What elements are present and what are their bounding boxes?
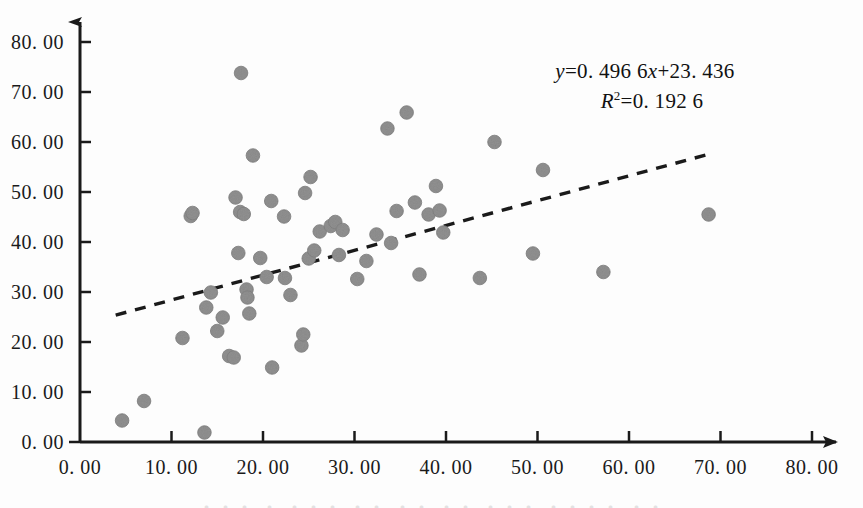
data-point [265,361,279,375]
equation-intercept: +23. 436 [657,59,734,83]
data-point [436,226,450,240]
regression-equation: y=0. 496 6x+23. 436 [520,56,770,86]
data-point [242,307,256,321]
scatter-plot-figure: 0. 0010. 0020. 0030. 0040. 0050. 0060. 0… [0,0,863,508]
data-point [241,291,255,305]
y-tick-label-10: 10. 00 [0,381,64,404]
data-points [115,66,715,439]
data-point [216,311,230,325]
data-point [488,135,502,149]
data-point [370,228,384,242]
equation-y-symbol: y [555,59,565,83]
y-tick-label-40: 40. 00 [0,231,64,254]
r-squared-exponent: 2 [614,88,621,103]
data-point [199,301,213,315]
data-point [381,122,395,136]
data-point [473,271,487,285]
data-point [526,247,540,261]
data-point [433,204,447,218]
data-point [227,351,241,365]
data-point [536,163,550,177]
x-tick-label-50: 50. 00 [511,456,564,479]
data-point [284,288,298,302]
data-point [384,236,398,250]
data-point [229,191,243,205]
data-point [336,223,350,237]
data-point [350,272,364,286]
data-point [304,170,318,184]
data-point [186,206,200,220]
x-tick-label-10: 10. 00 [145,456,198,479]
data-point [210,324,224,338]
data-point [429,179,443,193]
r-squared-annotation: R2=0. 192 6 [520,86,770,116]
y-tick-label-80: 80. 00 [0,31,64,54]
y-tick-label-60: 60. 00 [0,131,64,154]
data-point [232,246,246,260]
data-point [597,265,611,279]
data-point [296,328,310,342]
data-point [176,331,190,345]
y-tick-label-0: 0. 00 [0,431,64,454]
x-tick-label-20: 20. 00 [237,456,290,479]
data-point [298,186,312,200]
regression-annotation: y=0. 496 6x+23. 436 R2=0. 192 6 [520,56,770,117]
data-point [137,394,151,408]
data-point [307,244,321,258]
cropped-caption-sliver: ・・・ ・ ・・・ ・・ ・・ ・・ ・・・ ・・・・ ・・ [0,496,863,508]
data-point [413,268,427,282]
data-point [408,196,422,210]
data-point [360,254,374,268]
x-axis-ticks [172,431,813,442]
y-tick-label-20: 20. 00 [0,331,64,354]
equation-coefficient: =0. 496 6 [565,59,648,83]
data-point [278,271,292,285]
data-point [246,149,260,163]
r-squared-symbol: R [601,89,614,113]
x-tick-label-0: 0. 00 [59,456,102,479]
data-point [234,66,248,80]
x-tick-label-30: 30. 00 [328,456,381,479]
data-point [115,414,129,428]
data-point [253,251,267,265]
data-point [264,194,278,208]
data-point [702,208,716,222]
data-point [260,270,274,284]
data-point [390,204,404,218]
data-point [237,207,251,221]
x-tick-label-80: 80. 00 [786,456,839,479]
data-point [400,106,414,120]
data-point [204,286,218,300]
x-tick-label-60: 60. 00 [603,456,656,479]
r-squared-value: =0. 192 6 [621,89,704,113]
y-tick-label-70: 70. 00 [0,81,64,104]
data-point [277,210,291,224]
equation-x-symbol: x [648,59,658,83]
x-tick-label-40: 40. 00 [420,456,473,479]
data-point [198,426,212,440]
data-point [332,248,346,262]
y-tick-label-30: 30. 00 [0,281,64,304]
x-tick-label-70: 70. 00 [694,456,747,479]
y-tick-label-50: 50. 00 [0,181,64,204]
